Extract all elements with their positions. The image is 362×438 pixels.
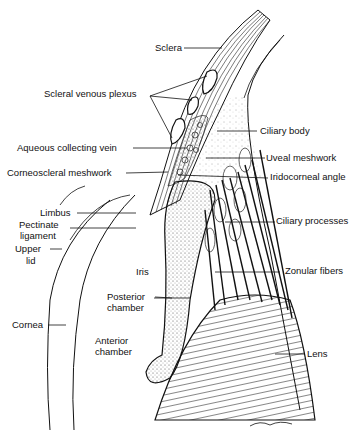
label-limbus: Limbus	[40, 208, 71, 218]
label-anterior-chamber-2: chamber	[95, 347, 132, 357]
label-anterior-chamber-1: Anterior	[95, 336, 128, 346]
label-scleral-venous-plexus: Scleral venous plexus	[44, 89, 136, 99]
label-cornea: Cornea	[12, 320, 43, 330]
label-iridocorneal-angle: Iridocorneal angle	[270, 172, 346, 182]
sclera-region	[150, 10, 270, 215]
label-pectinate-ligament-2: ligament	[20, 231, 56, 241]
label-posterior-chamber-1: Posterior	[107, 292, 145, 302]
label-sclera: Sclera	[155, 43, 182, 53]
label-ciliary-processes: Ciliary processes	[276, 216, 348, 226]
label-lens: Lens	[307, 349, 328, 359]
label-ciliary-body: Ciliary body	[260, 126, 310, 136]
label-upper-lid-1: Upper	[15, 244, 41, 254]
label-zonular-fibers: Zonular fibers	[285, 266, 343, 276]
label-aqueous-collecting-vein: Aqueous collecting vein	[17, 143, 117, 153]
label-pectinate-ligament-1: Pectinate	[19, 220, 59, 230]
label-upper-lid-2: lid	[26, 256, 36, 266]
label-corneoscleral-meshwork: Corneoscleral meshwork	[7, 168, 112, 178]
label-iris: Iris	[136, 267, 149, 277]
label-posterior-chamber-2: chamber	[107, 303, 144, 313]
label-uveal-meshwork: Uveal meshwork	[266, 153, 336, 163]
